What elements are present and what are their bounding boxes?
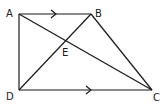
label-a: A: [6, 8, 13, 19]
trapezium-diagram: A B C D E: [0, 0, 167, 104]
label-c: C: [153, 92, 160, 103]
label-b: B: [95, 8, 102, 19]
label-e: E: [62, 47, 68, 58]
diagonal-ac: [19, 14, 152, 90]
label-d: D: [6, 91, 14, 102]
segment-bc: [91, 14, 152, 90]
diagonal-bd: [19, 14, 91, 90]
